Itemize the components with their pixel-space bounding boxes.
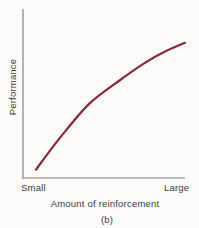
chart-canvas [0,0,199,228]
y-axis-title: Performance [8,59,18,116]
x-axis-max-label: Large [164,183,189,193]
x-axis-title: Amount of reinforcement [51,199,160,209]
reinforcement-performance-figure: Performance Small Large Amount of reinfo… [0,0,199,228]
performance-curve [36,43,185,170]
x-axis-min-label: Small [21,183,46,193]
figure-caption: (b) [101,215,113,225]
